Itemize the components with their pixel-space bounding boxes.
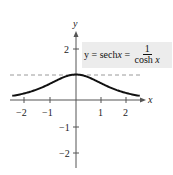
- equation-label: y = sech x = 1 cosh x: [84, 44, 160, 65]
- y-axis-label: y: [72, 18, 78, 29]
- equation-lhs: y = sech: [84, 49, 117, 60]
- x-axis-label: x: [147, 94, 153, 105]
- sech-graph: −2 −1 1 2 2 −1 −2 x y: [0, 0, 173, 175]
- x-tick-label: −2: [16, 107, 27, 118]
- x-tick-label: 2: [123, 107, 128, 118]
- fraction: 1 cosh x: [135, 44, 160, 65]
- y-tick-label: −2: [59, 148, 70, 159]
- y-axis-arrow: [74, 31, 79, 37]
- equation-equals: =: [122, 49, 133, 60]
- x-axis-arrow: [140, 98, 146, 103]
- x-tick-label: 1: [98, 107, 103, 118]
- fraction-denominator: cosh x: [135, 55, 160, 65]
- x-tick-label: −1: [42, 107, 53, 118]
- y-tick-label: −1: [59, 122, 70, 133]
- y-tick-label: 2: [64, 44, 69, 55]
